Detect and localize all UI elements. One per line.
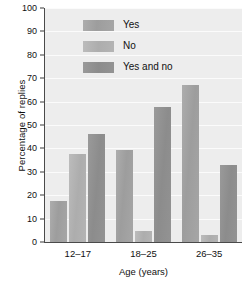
legend-label: Yes	[123, 18, 139, 32]
legend-swatch-icon	[83, 62, 114, 73]
gridline	[45, 125, 242, 126]
y-tick-label: 100	[22, 4, 37, 13]
bar-yes-and-no-18–25	[154, 107, 171, 242]
bar-chart-figure: Percentage of replies 010203040506070809…	[0, 0, 245, 286]
bar-no-26–35	[201, 235, 218, 242]
y-tick-label: 30	[27, 167, 37, 176]
x-axis-line	[44, 242, 242, 243]
legend-swatch-icon	[83, 20, 114, 31]
y-tick-label: 60	[27, 97, 37, 106]
legend-label: Yes and no	[123, 60, 173, 74]
bar-no-18–25	[135, 231, 152, 242]
x-axis-title: Age (years)	[45, 266, 242, 277]
y-axis-tick-labels: 0102030405060708090100	[8, 8, 44, 242]
gridline	[45, 102, 242, 103]
x-tick-label: 26–35	[196, 248, 222, 259]
legend-item: Yes	[83, 18, 223, 36]
y-tick-label: 0	[32, 238, 37, 247]
legend-label: No	[123, 39, 136, 53]
y-tick-label: 90	[27, 27, 37, 36]
bar-yes-and-no-12–17	[88, 134, 105, 242]
y-tick-label: 50	[27, 121, 37, 130]
y-tick-label: 70	[27, 74, 37, 83]
legend-swatch-icon	[83, 41, 114, 52]
y-tick-label: 10	[27, 214, 37, 223]
x-axis-tick-labels: 12–1718–2526–35	[45, 248, 242, 262]
bar-yes-12–17	[50, 201, 67, 242]
bar-yes-18–25	[116, 150, 133, 242]
x-tick-label: 18–25	[130, 248, 156, 259]
y-tick-label: 20	[27, 191, 37, 200]
y-tick-label: 80	[27, 50, 37, 59]
bar-yes-26–35	[182, 85, 199, 242]
y-tick-label: 40	[27, 144, 37, 153]
legend: YesNoYes and no	[83, 18, 223, 81]
legend-item: Yes and no	[83, 60, 223, 78]
x-tick-label: 12–17	[65, 248, 91, 259]
legend-item: No	[83, 39, 223, 57]
gridline	[45, 8, 242, 9]
bar-no-12–17	[69, 154, 86, 242]
bar-yes-and-no-26–35	[220, 165, 237, 242]
gridline	[45, 148, 242, 149]
